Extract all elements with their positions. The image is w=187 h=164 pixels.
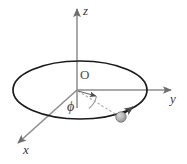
z-axis-label: z [83,4,88,17]
x-axis-label: x [23,143,29,156]
radius-dashed-line [78,91,117,115]
particle [116,112,126,122]
physics-diagram-figure: z y x O ϕ [0,0,187,164]
origin-label: O [80,68,89,81]
y-axis-label: y [170,92,176,105]
x-axis-line [18,90,77,143]
reference-direction-arrow [78,91,96,96]
angle-phi-label: ϕ [67,100,74,114]
diagram-canvas [0,0,187,164]
